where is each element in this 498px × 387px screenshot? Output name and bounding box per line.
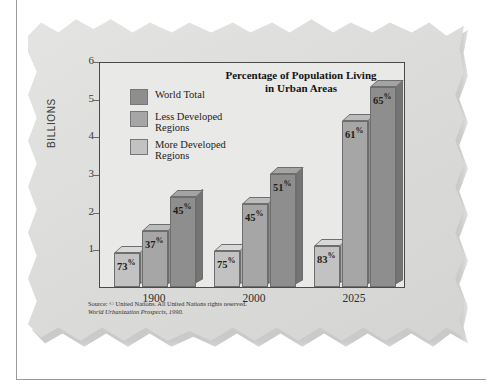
page-canvas: BILLIONS 123456 73%37%45%75%45%51%83%61%… bbox=[0, 0, 498, 387]
y-axis-label: BILLIONS bbox=[46, 98, 57, 148]
bar-side-face bbox=[396, 80, 403, 284]
chart-legend: World TotalLess DevelopedRegionsMore Dev… bbox=[130, 89, 226, 167]
bar-2025-more-developed-regions: 83% bbox=[314, 246, 340, 287]
y-tick-label: 3 bbox=[70, 167, 94, 179]
legend-label-line1: World Total bbox=[155, 90, 205, 101]
bar-2000-world-total: 51% bbox=[270, 174, 296, 287]
bar-value-label: 45% bbox=[245, 209, 264, 223]
bar-value-label: 61% bbox=[345, 126, 364, 140]
page-rule-bottom bbox=[16, 379, 486, 380]
y-tick-label: 6 bbox=[70, 54, 94, 66]
bar-2025-world-total: 65% bbox=[370, 87, 396, 287]
y-tick-label: 2 bbox=[70, 205, 94, 217]
bar-value-label: 73% bbox=[117, 258, 136, 272]
chart-title-line1: Percentage of Population Living bbox=[196, 69, 406, 82]
bar-value-label: 37% bbox=[145, 236, 164, 250]
legend-swatch bbox=[130, 89, 148, 105]
source-line-1: Source: © United Nations. All United Nat… bbox=[88, 300, 408, 308]
legend-label-line2: Regions bbox=[155, 151, 226, 162]
legend-label: Less DevelopedRegions bbox=[155, 111, 222, 133]
bar-value-label: 45% bbox=[173, 202, 192, 216]
legend-label-line1: More Developed bbox=[155, 140, 226, 151]
legend-label: World Total bbox=[155, 89, 205, 101]
y-tick-label: 1 bbox=[70, 242, 94, 254]
legend-item-2: More DevelopedRegions bbox=[130, 139, 226, 161]
y-tick-label: 4 bbox=[70, 129, 94, 141]
legend-swatch bbox=[130, 111, 148, 127]
legend-swatch bbox=[130, 139, 148, 155]
legend-label-line1: Less Developed bbox=[155, 112, 222, 123]
legend-item-1: Less DevelopedRegions bbox=[130, 111, 226, 133]
y-tick-label: 5 bbox=[70, 92, 94, 104]
legend-item-0: World Total bbox=[130, 89, 226, 105]
bar-side-face bbox=[296, 166, 303, 283]
bar-2025-less-developed-regions: 61% bbox=[342, 121, 368, 287]
source-citation: Source: © United Nations. All United Nat… bbox=[88, 300, 408, 315]
legend-label: More DevelopedRegions bbox=[155, 139, 226, 161]
bar-front-face bbox=[342, 121, 368, 287]
bar-value-label: 75% bbox=[217, 256, 236, 270]
chart-plot-area: 73%37%45%75%45%51%83%61%65% Percentage o… bbox=[99, 62, 405, 288]
bar-value-label: 51% bbox=[273, 179, 292, 193]
bar-1900-less-developed-regions: 37% bbox=[142, 231, 168, 288]
bar-1900-world-total: 45% bbox=[170, 197, 196, 287]
chart-title-line2: in Urban Areas bbox=[196, 82, 406, 95]
bar-value-label: 83% bbox=[317, 251, 336, 265]
bar-side-face bbox=[196, 189, 203, 283]
chart-title: Percentage of Population Living in Urban… bbox=[196, 69, 406, 95]
bar-1900-more-developed-regions: 73% bbox=[114, 253, 140, 287]
source-line-2: World Urbanization Prospects, 1990. bbox=[88, 308, 183, 315]
bar-2000-more-developed-regions: 75% bbox=[214, 251, 240, 287]
bar-2000-less-developed-regions: 45% bbox=[242, 204, 268, 287]
bar-front-face bbox=[370, 87, 396, 287]
page-rule-left bbox=[16, 0, 17, 380]
legend-label-line2: Regions bbox=[155, 123, 222, 134]
